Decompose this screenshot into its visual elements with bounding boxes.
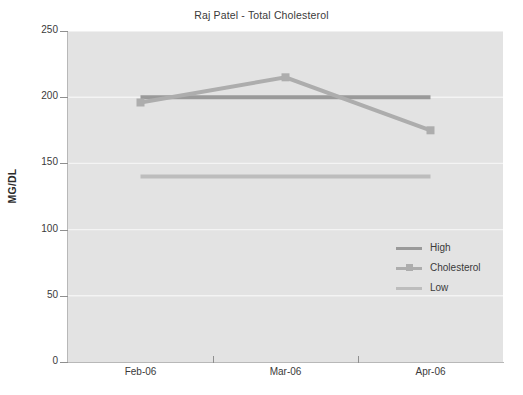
y-tick-mark xyxy=(60,296,68,297)
legend-item-cholesterol[interactable]: Cholesterol xyxy=(396,258,502,278)
y-tick-label: 150 xyxy=(4,156,58,167)
legend-swatch-low xyxy=(396,287,422,290)
y-tick-mark xyxy=(60,31,68,32)
legend-item-low[interactable]: Low xyxy=(396,278,502,298)
y-tick-label: 50 xyxy=(4,289,58,300)
x-tick-label: Mar-06 xyxy=(270,366,302,377)
legend-label-cholesterol: Cholesterol xyxy=(430,258,481,278)
y-tick-mark xyxy=(60,163,68,164)
data-point-marker xyxy=(137,99,145,107)
chart-legend: High Cholesterol Low xyxy=(396,238,502,298)
x-tick-mark xyxy=(213,356,214,363)
y-tick-label: 200 xyxy=(4,90,58,101)
x-tick-mark xyxy=(358,356,359,363)
y-tick-mark xyxy=(60,362,68,363)
x-tick-label: Feb-06 xyxy=(125,366,157,377)
plot-canvas xyxy=(68,31,503,362)
legend-label-low: Low xyxy=(430,278,448,298)
legend-marker-cholesterol xyxy=(406,264,413,271)
data-point-marker xyxy=(282,73,290,81)
cholesterol-line-chart: Raj Patel - Total Cholesterol MG/DL 2502… xyxy=(0,0,523,395)
y-axis-line xyxy=(67,31,68,363)
chart-title: Raj Patel - Total Cholesterol xyxy=(0,9,523,21)
x-tick-label: Apr-06 xyxy=(415,366,445,377)
y-tick-label: 0 xyxy=(4,355,58,366)
legend-item-high[interactable]: High xyxy=(396,238,502,258)
y-tick-mark xyxy=(60,230,68,231)
y-tick-label: 250 xyxy=(4,24,58,35)
data-point-marker xyxy=(427,126,435,134)
legend-swatch-high xyxy=(396,247,422,250)
y-tick-label: 100 xyxy=(4,223,58,234)
legend-label-high: High xyxy=(430,238,451,258)
y-axis-ticks: 250200150100500 xyxy=(0,0,58,395)
y-tick-mark xyxy=(60,97,68,98)
series-line-cholesterol xyxy=(141,77,431,130)
x-axis-line xyxy=(68,362,504,363)
plot-area xyxy=(68,31,503,362)
